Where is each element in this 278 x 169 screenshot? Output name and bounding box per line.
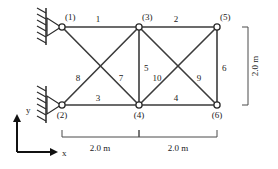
dimension-right-label: 2.0 m (250, 56, 260, 77)
member-4-label: 4 (174, 93, 179, 103)
member-5-label: 5 (144, 63, 149, 73)
node-1-marker (59, 24, 65, 30)
node-1-label: (1) (65, 12, 76, 22)
dimension-bottom-left: 2.0 m (62, 130, 139, 153)
node-4-label: (4) (134, 110, 145, 120)
node-2-label: (2) (57, 110, 68, 120)
member-8-label: 8 (76, 73, 81, 83)
truss-members (62, 27, 217, 105)
node-3-label: (3) (142, 12, 153, 22)
dimension-right-bracket (242, 27, 248, 105)
node-2-marker (59, 102, 65, 108)
member-2-label: 2 (174, 14, 179, 24)
y-axis-label: y (26, 105, 31, 115)
x-axis-label: x (62, 148, 67, 158)
support-hatching-2 (37, 86, 46, 121)
truss-figure: (1) (2) (3) (4) (5) (6) 1 2 3 4 5 6 7 8 … (0, 0, 278, 169)
dimension-bottom-right-bracket (139, 130, 217, 137)
dimension-bottom-right: 2.0 m (139, 130, 217, 153)
truss-diagram-canvas: (1) (2) (3) (4) (5) (6) 1 2 3 4 5 6 7 8 … (0, 0, 278, 169)
x-axis-arrow-icon (50, 148, 58, 156)
node-5-label: (5) (220, 12, 231, 22)
node-6-label: (6) (212, 110, 223, 120)
dimension-bottom-left-bracket (62, 130, 139, 137)
member-10-label: 10 (153, 73, 163, 83)
member-3-label: 3 (96, 93, 101, 103)
member-7-label: 7 (119, 73, 124, 83)
support-hatching-1 (37, 8, 46, 43)
node-4-marker (136, 102, 142, 108)
member-1-label: 1 (96, 14, 101, 24)
node-5-marker (214, 24, 220, 30)
dimension-bottom-left-label: 2.0 m (90, 143, 111, 153)
y-axis-arrow-icon (13, 114, 21, 122)
node-3-marker (136, 24, 142, 30)
dimension-right-height: 2.0 m (242, 27, 260, 105)
member-9-label: 9 (197, 73, 202, 83)
support-node-1 (37, 8, 61, 45)
dimension-bottom-right-label: 2.0 m (168, 143, 189, 153)
node-6-marker (214, 102, 220, 108)
member-6-label: 6 (222, 63, 227, 73)
